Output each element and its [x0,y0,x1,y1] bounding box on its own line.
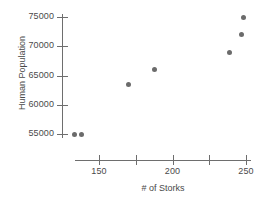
y-axis-tick [57,134,68,135]
x-axis-line [75,160,251,161]
x-axis-tick [136,155,137,165]
y-axis-tick [57,105,68,106]
x-axis-tick [209,155,210,165]
scatter-plot-figure: 5500060000650007000075000 Human Populati… [0,0,267,209]
y-axis-tick [57,76,68,77]
y-axis-tick-label: 60000 [8,99,54,109]
y-axis-tick [57,46,68,47]
y-axis-title: Human Population [17,13,27,133]
x-axis-tick [246,155,247,165]
scatter-point [152,67,157,72]
x-axis-tick [173,155,174,165]
x-axis-tick-label: 200 [153,166,193,176]
scatter-point [227,50,232,55]
x-axis-title: # of Storks [75,183,251,193]
scatter-point [241,15,246,20]
x-axis-tick-label: 150 [79,166,119,176]
scatter-point [72,132,77,137]
scatter-point [239,32,244,37]
y-axis-tick-label: 55000 [8,128,54,138]
y-axis-tick-label: 75000 [8,11,54,21]
y-axis-tick-label: 65000 [8,70,54,80]
x-axis-tick [99,155,100,165]
scatter-point [79,132,84,137]
scatter-point [126,82,131,87]
x-axis-tick-label: 250 [226,166,266,176]
y-axis-tick-label: 70000 [8,40,54,50]
y-axis-tick [57,17,68,18]
